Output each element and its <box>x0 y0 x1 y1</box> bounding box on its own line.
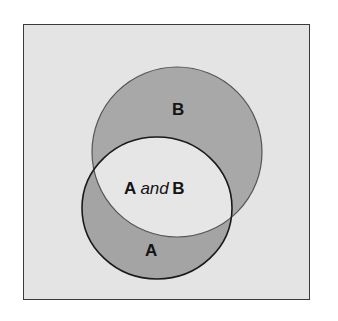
set-b-label: B <box>172 101 184 118</box>
intersection-right-label: B <box>172 179 184 198</box>
intersection-label: A and B <box>124 180 184 197</box>
set-a-label: A <box>145 242 157 259</box>
intersection-conjunction: and <box>140 179 172 198</box>
intersection-left-label: A <box>124 179 136 198</box>
venn-diagram <box>0 0 338 321</box>
